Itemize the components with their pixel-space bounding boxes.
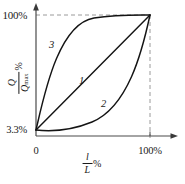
y-axis-title-numerator: Q (7, 77, 18, 88)
y-axis-title-percent: % (14, 62, 24, 70)
x-axis-title-denominator: L (83, 163, 93, 175)
valve-characteristic-chart: 100% 3.3% 0 100% 3 1 2 Q Qmax % l L % (0, 0, 185, 184)
y-axis-title-denominator: Qmax (18, 71, 30, 93)
x-axis-tick-label-zero: 0 (33, 146, 38, 157)
x-axis-arrowhead (171, 133, 179, 139)
curve-label-1: 1 (79, 76, 84, 87)
x-axis-title-fraction: l L (83, 152, 93, 175)
x-axis-title: l L % (83, 152, 102, 175)
y-axis-title-denominator-subscript: max (22, 73, 29, 84)
x-axis-title-percent: % (93, 159, 101, 169)
y-axis-arrowhead (33, 3, 39, 11)
y-axis-title-denominator-base: Q (19, 85, 30, 92)
x-axis-tick-label-100: 100% (138, 146, 161, 157)
y-axis-tick-label-min: 3.3% (6, 125, 27, 136)
x-axis-title-numerator: l (84, 152, 91, 163)
y-axis-title-fraction: Q Qmax (7, 71, 30, 93)
curve-label-3: 3 (49, 40, 54, 51)
y-axis-tick-label-100: 100% (3, 10, 27, 21)
curve-label-2: 2 (101, 99, 106, 110)
y-axis-title: Q Qmax % (7, 62, 30, 94)
